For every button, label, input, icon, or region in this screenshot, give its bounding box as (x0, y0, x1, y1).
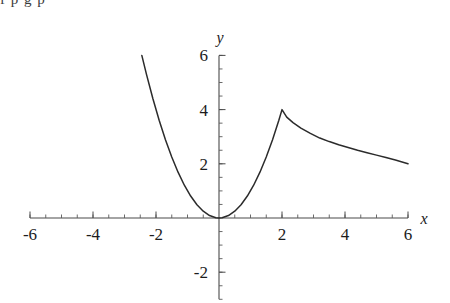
y-tick-label: 4 (200, 101, 209, 120)
figure-canvas: f p g p -6-4-2246 -2246 x y (0, 0, 450, 303)
y-axis-major-ticks (219, 55, 226, 272)
y-tick-label: 6 (200, 46, 209, 65)
data-curve (142, 55, 408, 218)
x-tick-label: -2 (149, 225, 163, 244)
y-axis-label: y (214, 29, 224, 47)
y-axis-tick-labels: -2246 (194, 46, 209, 282)
x-tick-label: 4 (341, 225, 350, 244)
y-tick-label: -2 (194, 263, 208, 282)
x-tick-label: 6 (404, 225, 413, 244)
x-axis-label: x (419, 210, 427, 227)
x-tick-label: -6 (23, 225, 37, 244)
x-tick-label: -4 (86, 225, 101, 244)
y-tick-label: 2 (200, 155, 209, 174)
function-plot: -6-4-2246 -2246 x y (0, 0, 450, 303)
x-tick-label: 2 (278, 225, 287, 244)
x-axis-tick-labels: -6-4-2246 (23, 225, 412, 244)
